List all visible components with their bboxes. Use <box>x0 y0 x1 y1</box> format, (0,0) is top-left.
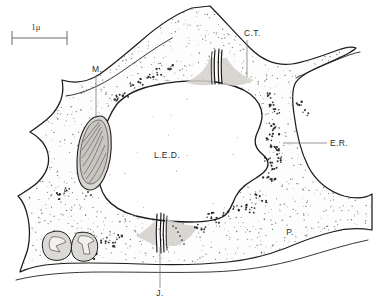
scale-bar-group: 1μ <box>12 22 67 45</box>
cell-diagram-svg: C.T.M.E.R.L.E.D.P.J. 1μ <box>0 0 374 308</box>
label-p: P. <box>286 227 294 237</box>
label-j: J. <box>156 288 163 298</box>
label-led: L.E.D. <box>154 150 180 160</box>
label-ct: C.T. <box>244 28 261 38</box>
scale-bar-rule <box>12 31 67 45</box>
figure-root: C.T.M.E.R.L.E.D.P.J. 1μ <box>0 0 374 308</box>
scale-bar-label: 1μ <box>31 22 41 32</box>
label-er: E.R. <box>330 138 348 148</box>
label-m: M. <box>92 64 102 74</box>
